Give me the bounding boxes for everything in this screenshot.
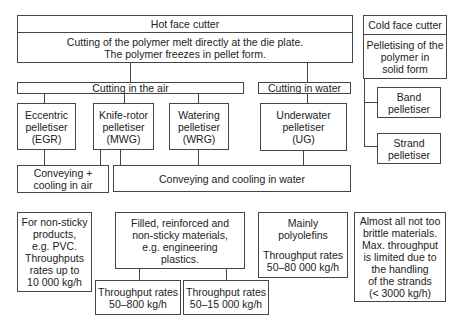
hot-face-cutter-title: Hot face cutter xyxy=(17,15,353,33)
polyolefins-throughput: Throughput rates 50–80 000 kg/h xyxy=(263,249,343,273)
connector-line xyxy=(100,150,101,165)
throughput-mwg: Throughput rates 50–800 kg/h xyxy=(95,280,181,315)
polyolefins-note: Mainly polyolefins Throughput rates 50–8… xyxy=(258,212,348,278)
conveying-cooling-air: Conveying + cooling in air xyxy=(17,165,109,193)
filled-materials-note: Filled, reinforced and non-sticky materi… xyxy=(115,212,245,269)
connector-line xyxy=(124,94,125,103)
underwater-pelletiser: Underwater pelletiser (UG) xyxy=(260,103,347,151)
cutting-in-air: Cutting in the air xyxy=(17,82,244,94)
polyolefins-title: Mainly polyolefins xyxy=(278,217,328,241)
cold-face-cutter-title: Cold face cutter xyxy=(363,15,447,35)
connector-line xyxy=(307,63,308,82)
eccentric-pelletiser: Eccentric pelletiser (EGR) xyxy=(17,103,76,150)
cold-face-cutter-description: Pelletising of the polymer in solid form xyxy=(363,34,447,79)
throughput-wrg: Throughput rates 50–15 000 kg/h xyxy=(183,280,269,315)
connector-line xyxy=(44,94,45,103)
connector-line xyxy=(198,150,199,165)
hot-face-cutter-description: Cutting of the polymer melt directly at … xyxy=(17,32,353,63)
strand-pelletiser: Strand pelletiser xyxy=(377,133,441,164)
connector-line xyxy=(120,150,121,165)
strand-materials-note: Almost all not too brittle materials. Ma… xyxy=(354,212,446,302)
connector-line xyxy=(364,79,365,146)
connector-line xyxy=(307,94,308,103)
connector-line xyxy=(198,94,199,103)
connector-line xyxy=(130,63,131,82)
connector-line xyxy=(364,146,377,147)
pelletiser-classification-diagram: Hot face cutter Cutting of the polymer m… xyxy=(0,0,459,326)
connector-line xyxy=(226,269,227,280)
connector-line xyxy=(303,151,304,165)
connector-line xyxy=(44,150,45,165)
knife-rotor-pelletiser: Knife-rotor pelletiser (MWG) xyxy=(93,103,154,150)
watering-pelletiser: Watering pelletiser (WRG) xyxy=(169,103,229,150)
band-pelletiser: Band pelletiser xyxy=(377,87,441,118)
connector-line xyxy=(139,269,140,280)
connector-line xyxy=(364,102,377,103)
cutting-in-water: Cutting in water xyxy=(258,82,351,94)
non-sticky-products-note: For non-sticky products, e.g. PVC. Throu… xyxy=(17,212,92,292)
conveying-cooling-water: Conveying and cooling in water xyxy=(113,165,351,192)
